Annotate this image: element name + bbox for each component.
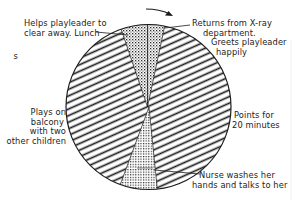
label-nurse-washes-hands: Nurse washes her hands and talks to her <box>192 171 282 190</box>
label-helps-playleader: Helps playleader to clear away. Lunch <box>24 19 104 38</box>
label-returns-from-xray: Returns from X-ray department. Greets pl… <box>192 19 292 57</box>
label-plays-on-balcony: Plays on balcony with two other children <box>6 108 66 146</box>
label-returns-line4: happily <box>192 48 292 58</box>
label-edge-fragment: s <box>8 52 18 62</box>
label-nurse-line2: hands and talks to her <box>192 181 282 191</box>
label-helps-line2: clear away. Lunch <box>24 29 94 39</box>
clockwise-arrow-icon <box>146 9 173 16</box>
label-plays-line4: other children <box>6 137 66 147</box>
label-paints-line2: 20 minutes <box>232 121 292 131</box>
label-edge-fragment-text: s <box>8 52 18 62</box>
label-paints: Points for 20 minutes <box>232 111 292 130</box>
